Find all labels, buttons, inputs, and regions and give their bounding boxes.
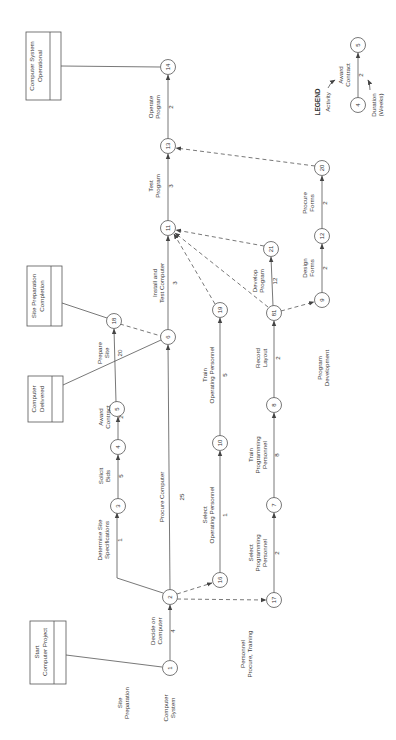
svg-text:Specifications: Specifications: [103, 521, 110, 559]
node-5: 5: [110, 402, 125, 417]
svg-text:Program: Program: [154, 174, 161, 198]
svg-text:4: 4: [169, 629, 176, 633]
svg-text:Layout: Layout: [261, 348, 268, 367]
svg-text:2: 2: [274, 356, 281, 360]
svg-text:2: 2: [321, 201, 328, 205]
svg-text:Award: Award: [337, 66, 344, 84]
svg-text:Train: Train: [201, 368, 208, 382]
node-16: 16: [213, 573, 228, 588]
svg-text:2: 2: [167, 105, 174, 109]
milestone-start: Start Computer Project: [30, 621, 162, 684]
legend-node-5: 5: [351, 38, 366, 53]
svg-text:20: 20: [319, 164, 325, 171]
svg-text:25: 25: [178, 493, 185, 500]
svg-text:Personnel: Personnel: [261, 539, 268, 567]
node-3: 3: [111, 499, 126, 514]
milestone-text: Completion: [38, 280, 45, 312]
svg-text:Design: Design: [301, 258, 308, 278]
svg-text:14: 14: [165, 63, 171, 70]
milestone-text: Computer: [30, 385, 37, 412]
svg-text:1: 1: [221, 513, 228, 517]
svg-text:(Weeks): (Weeks): [377, 94, 384, 117]
svg-text:10: 10: [217, 439, 223, 446]
milestone-text: Computer System: [28, 41, 35, 91]
svg-text:Install and: Install and: [151, 268, 158, 297]
node-11: 11: [161, 221, 176, 236]
svg-text:Test Computer: Test Computer: [158, 263, 165, 303]
node-1: 1: [163, 661, 178, 676]
svg-text:2: 2: [117, 415, 124, 419]
svg-text:Site: Site: [103, 347, 110, 358]
svg-text:Program: Program: [258, 269, 265, 293]
svg-text:16: 16: [217, 576, 223, 583]
node-8: 8: [267, 398, 282, 413]
svg-text:System: System: [169, 698, 176, 719]
node-81: 81: [267, 306, 282, 321]
svg-text:11: 11: [165, 224, 171, 231]
svg-text:21: 21: [268, 245, 274, 252]
section-labels: Computer System Site Preparation Personn…: [116, 349, 330, 721]
node-10: 10: [213, 436, 228, 451]
svg-text:Programming: Programming: [254, 436, 261, 474]
svg-text:Duration: Duration: [370, 93, 377, 117]
svg-text:Personnel: Personnel: [239, 640, 246, 668]
svg-text:Programming: Programming: [254, 534, 261, 572]
svg-text:Contract: Contract: [344, 63, 351, 87]
svg-text:Operate: Operate: [147, 95, 154, 118]
svg-text:Personnel: Personnel: [261, 441, 268, 469]
svg-text:Activity: Activity: [324, 91, 331, 112]
svg-text:3: 3: [167, 184, 174, 188]
node-2: 2: [163, 590, 178, 605]
node-9: 9: [315, 293, 330, 308]
legend: LEGEND Activity Award Contract 2 4 5 Dur…: [314, 38, 384, 117]
svg-text:Operating Personnel: Operating Personnel: [208, 487, 215, 544]
svg-text:5: 5: [221, 373, 228, 377]
svg-text:17: 17: [271, 596, 277, 603]
svg-text:Select: Select: [201, 506, 208, 523]
svg-text:Decide on: Decide on: [149, 617, 156, 645]
svg-text:Forms: Forms: [308, 259, 315, 277]
svg-text:Test: Test: [147, 180, 154, 192]
node-19: 19: [213, 303, 228, 318]
pert-network-diagram: Computer System Operational Site Prepara…: [0, 0, 396, 740]
svg-text:19: 19: [217, 306, 223, 313]
milestone-text: Computer Project: [41, 628, 48, 676]
node-13: 13: [161, 139, 176, 154]
svg-text:81: 81: [271, 309, 277, 316]
svg-text:Select: Select: [247, 544, 254, 561]
legend-node-4: 4: [351, 98, 366, 113]
svg-text:Computer: Computer: [156, 617, 163, 644]
svg-text:13: 13: [165, 142, 171, 149]
svg-text:Award: Award: [97, 408, 104, 426]
svg-text:Program: Program: [316, 356, 323, 380]
svg-text:2: 2: [273, 551, 280, 555]
activity-labels: Decide on Computer 4 Determine Site Spec…: [96, 95, 328, 645]
svg-text:Site: Site: [116, 697, 123, 708]
dummy-edges: [120, 148, 315, 600]
svg-text:Forms: Forms: [308, 194, 315, 212]
svg-text:1: 1: [116, 538, 123, 542]
node-6: 6: [161, 330, 176, 345]
svg-text:Solicit: Solicit: [97, 467, 104, 484]
node-21: 21: [264, 242, 279, 257]
svg-text:Program: Program: [154, 95, 161, 119]
milestone-site-completion: Site Preparation Completion: [27, 266, 107, 326]
node-7: 7: [267, 498, 282, 513]
milestone-text: Start: [33, 645, 40, 658]
svg-text:Development: Development: [323, 349, 330, 386]
svg-text:Operating Personnel: Operating Personnel: [208, 347, 215, 404]
svg-text:12: 12: [319, 232, 325, 239]
milestone-text: Delivered: [38, 385, 45, 412]
svg-text:12: 12: [271, 277, 278, 284]
svg-text:Preparation: Preparation: [123, 686, 130, 719]
milestone-text: Operational: [36, 50, 43, 82]
svg-text:Train: Train: [247, 448, 254, 462]
node-18: 18: [107, 314, 122, 329]
svg-text:Computer: Computer: [162, 694, 169, 721]
svg-text:18: 18: [111, 317, 117, 324]
milestone-text: Site Preparation: [30, 273, 37, 318]
node-12: 12: [315, 229, 330, 244]
milestone-operational: Computer System Operational: [26, 32, 160, 100]
svg-text:8: 8: [273, 453, 280, 457]
svg-text:Develop: Develop: [251, 269, 258, 292]
